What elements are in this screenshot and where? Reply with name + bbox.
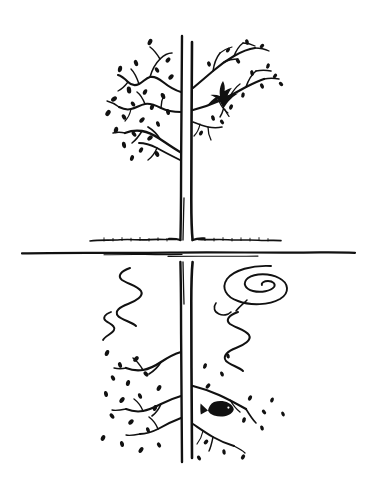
background	[0, 0, 368, 488]
artboard: Bare Tree with Bird and Underwater Refle…	[0, 0, 368, 488]
drawing-canvas	[0, 0, 368, 488]
